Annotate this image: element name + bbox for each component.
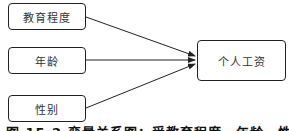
- node-age: 年龄: [8, 47, 86, 74]
- node-income-label: 个人工资: [218, 53, 266, 69]
- figure-caption: 图 15-2 变量关系图：受教育程度、年龄、性别: [6, 122, 289, 131]
- node-gender: 性别: [8, 95, 86, 122]
- edge-education-income: [86, 17, 195, 56]
- edge-gender-income: [86, 64, 195, 108]
- node-income: 个人工资: [197, 40, 286, 81]
- node-education: 教育程度: [8, 3, 86, 30]
- node-gender-label: 性别: [35, 101, 59, 117]
- node-education-label: 教育程度: [23, 9, 71, 25]
- node-age-label: 年龄: [35, 53, 59, 69]
